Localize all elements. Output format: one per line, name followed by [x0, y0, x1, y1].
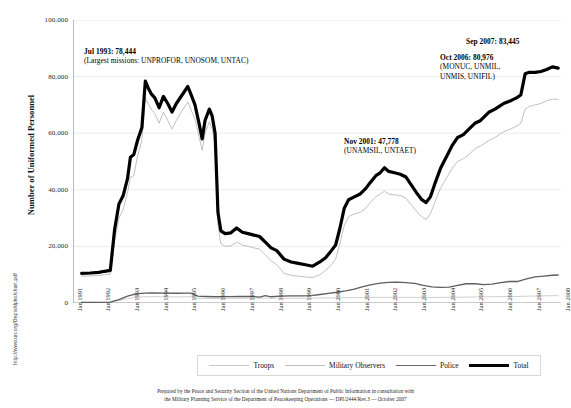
- annotation-head: Sep 2007: 83,445: [466, 37, 520, 46]
- annotation-head: Jul 1993: 78,444: [84, 47, 248, 56]
- legend-swatch: [469, 364, 509, 367]
- annotation-sub: (UNAMSIL, UNTAET): [344, 146, 416, 155]
- x-axis-ticks: Jan 1991Jan 1992Jan 1993Jan 1994Jan 1995…: [73, 307, 561, 351]
- x-tick-label: Jan 2003: [420, 288, 427, 311]
- annotation-jul-1993: Jul 1993: 78,444 (Largest missions: UNPR…: [84, 47, 248, 66]
- legend-label: Military Observers: [329, 361, 385, 370]
- series-line-military-observers: [82, 296, 559, 303]
- legend-item-troops[interactable]: Troops: [209, 361, 274, 370]
- legend-swatch: [285, 365, 325, 366]
- legend-label: Total: [513, 361, 528, 370]
- annotation-head: Oct 2006: 80,976: [440, 53, 500, 62]
- y-tick-label: 100,000: [45, 16, 68, 24]
- legend-label: Troops: [253, 361, 274, 370]
- legend-swatch: [209, 365, 249, 366]
- y-tick-label: 0: [64, 299, 68, 307]
- y-tick-label: 40,000: [48, 186, 68, 194]
- x-tick-label: Jan 2008: [564, 288, 571, 311]
- legend-item-police[interactable]: Police: [396, 361, 458, 370]
- annotation-sub: (MONUC, UNMIL,: [440, 62, 500, 71]
- x-tick-label: Jan 1999: [305, 288, 312, 311]
- x-tick-label: Jan 1991: [76, 288, 83, 311]
- x-tick-label: Jan 2002: [391, 288, 398, 311]
- x-tick-label: Jan 1996: [219, 288, 226, 311]
- annotation-sub2: UNMIS, UNIFIL): [440, 72, 500, 81]
- annotation-oct-2006: Oct 2006: 80,976 (MONUC, UNMIL, UNMIS, U…: [440, 53, 500, 81]
- footer-line-1: Prepared by the Peace and Security Secti…: [0, 387, 571, 395]
- x-tick-label: Jan 2007: [535, 288, 542, 311]
- x-tick-label: Jan 2004: [449, 288, 456, 311]
- x-tick-label: Jan 2000: [334, 288, 341, 311]
- x-tick-label: Jan 1992: [104, 288, 111, 311]
- chart-figure: http://www.un.org/Depts/dpko/chart.pdf N…: [0, 0, 571, 408]
- y-tick-label: 60,000: [48, 129, 68, 137]
- y-tick-label: 80,000: [48, 73, 68, 81]
- x-tick-label: Jan 2001: [363, 288, 370, 311]
- y-axis-ticks: 020,00040,00060,00080,000100,000: [14, 20, 68, 303]
- x-tick-label: Jan 1994: [162, 288, 169, 311]
- x-tick-label: Jan 1993: [133, 288, 140, 311]
- x-tick-label: Jan 1997: [248, 288, 255, 311]
- footer-line-2: the Military Planning Service of the Dep…: [0, 395, 571, 403]
- series-line-total: [82, 67, 559, 273]
- annotation-head: Nov 2001: 47,778: [344, 137, 416, 146]
- x-tick-label: Jan 1995: [190, 288, 197, 311]
- x-tick-label: Jan 2005: [477, 288, 484, 311]
- legend-label: Police: [440, 361, 458, 370]
- legend-item-military-observers[interactable]: Military Observers: [285, 361, 385, 370]
- annotation-nov-2001: Nov 2001: 47,778 (UNAMSIL, UNTAET): [344, 137, 416, 156]
- chart-legend: TroopsMilitary ObserversPoliceTotal: [197, 355, 541, 376]
- legend-swatch: [396, 365, 436, 366]
- legend-item-total[interactable]: Total: [469, 361, 528, 370]
- x-tick-label: Jan 2006: [506, 288, 513, 311]
- y-tick-label: 20,000: [48, 242, 68, 250]
- annotation-sep-2007: Sep 2007: 83,445: [466, 37, 520, 46]
- x-tick-label: Jan 1998: [277, 288, 284, 311]
- series-line-troops: [82, 98, 559, 278]
- annotation-sub: (Largest missions: UNPROFOR, UNOSOM, UNT…: [84, 56, 248, 65]
- figure-footer: Prepared by the Peace and Security Secti…: [0, 387, 571, 403]
